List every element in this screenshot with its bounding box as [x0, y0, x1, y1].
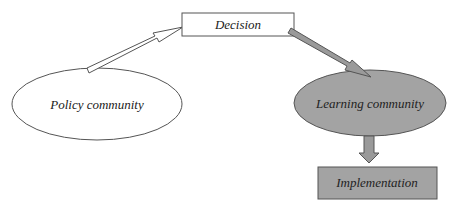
arrow-decision-to-learning-icon [288, 28, 371, 77]
learning-community-label: Learning community [315, 96, 424, 111]
implementation-label: Implementation [335, 175, 418, 190]
arrow-policy-to-decision-icon [87, 27, 183, 73]
decision-node: Decision [182, 13, 294, 36]
policy-community-label: Policy community [49, 97, 144, 112]
arrow-learning-to-implementation-icon [359, 136, 379, 163]
implementation-node: Implementation [318, 167, 437, 199]
decision-label: Decision [214, 17, 261, 32]
policy-community-node: Policy community [12, 68, 182, 140]
learning-community-node: Learning community [294, 70, 446, 136]
diagram-canvas: Policy community Decision Learning commu… [0, 0, 457, 204]
